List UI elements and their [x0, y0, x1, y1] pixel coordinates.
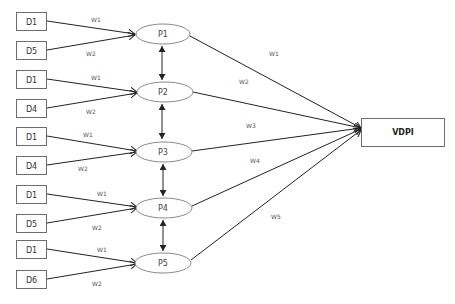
- input-node-d1[interactable]: D1: [17, 71, 47, 89]
- input-node-label: D6: [26, 276, 37, 285]
- weight-label: W2: [78, 165, 88, 172]
- input-node-label: D1: [26, 191, 37, 200]
- input-node-d5[interactable]: D5: [17, 215, 47, 233]
- weight-label: W2: [86, 108, 96, 115]
- weight-label: W2: [92, 224, 102, 231]
- input-node-label: D5: [26, 220, 37, 229]
- input-node-label: D5: [26, 47, 37, 56]
- weight-label: W5: [271, 213, 281, 220]
- input-node-d1[interactable]: D1: [17, 13, 47, 31]
- process-node-p5[interactable]: P5: [135, 253, 191, 273]
- output-edges: [190, 36, 361, 260]
- input-node-label: D4: [26, 162, 37, 171]
- process-node-label: P3: [158, 148, 168, 157]
- process-node-p2[interactable]: P2: [137, 82, 193, 102]
- weight-label: W1: [97, 190, 107, 197]
- weight-label: W1: [83, 131, 93, 138]
- process-node-p1[interactable]: P1: [136, 24, 190, 44]
- weight-label: W2: [86, 50, 96, 57]
- input-node-d1[interactable]: D1: [17, 241, 47, 259]
- input-node-label: D1: [26, 246, 37, 255]
- input-node-label: D4: [26, 105, 37, 114]
- input-node-d1[interactable]: D1: [17, 186, 47, 204]
- process-node-p3[interactable]: P3: [136, 142, 192, 162]
- weight-label: W1: [269, 50, 279, 57]
- input-nodes: D1 D5 D1 D4 D1 D4 D1 D5: [17, 13, 47, 289]
- output-weight-labels: W1 W2 W3 W4 W5: [239, 50, 281, 220]
- weight-label: W1: [91, 74, 101, 81]
- weight-label: W4: [250, 157, 260, 164]
- flow-diagram: D1 D5 D1 D4 D1 D4 D1 D5: [0, 0, 455, 304]
- input-node-d1[interactable]: D1: [17, 128, 47, 146]
- weight-label: W3: [246, 122, 256, 129]
- weight-label: W1: [97, 246, 107, 253]
- input-edges: [47, 21, 137, 279]
- process-node-p4[interactable]: P4: [136, 198, 192, 218]
- input-node-d4[interactable]: D4: [17, 157, 47, 175]
- input-weight-labels: W1 W2 W1 W2 W1 W2 W1 W2 W1 W2: [78, 16, 107, 287]
- process-node-label: P4: [158, 204, 168, 213]
- input-node-d4[interactable]: D4: [17, 100, 47, 118]
- input-node-d5[interactable]: D5: [17, 42, 47, 60]
- process-node-label: P2: [158, 88, 168, 97]
- input-node-d6[interactable]: D6: [17, 271, 47, 289]
- weight-label: W2: [92, 280, 102, 287]
- input-node-label: D1: [26, 76, 37, 85]
- output-node-label: VDPI: [392, 128, 414, 137]
- output-node-vdpi[interactable]: VDPI: [362, 119, 445, 147]
- process-node-label: P5: [158, 259, 168, 268]
- process-node-label: P1: [158, 30, 168, 39]
- input-node-label: D1: [26, 133, 37, 142]
- weight-label: W1: [91, 16, 101, 23]
- weight-label: W2: [239, 78, 249, 85]
- input-node-label: D1: [26, 18, 37, 27]
- process-nodes: P1 P2 P3 P4 P5: [135, 24, 193, 273]
